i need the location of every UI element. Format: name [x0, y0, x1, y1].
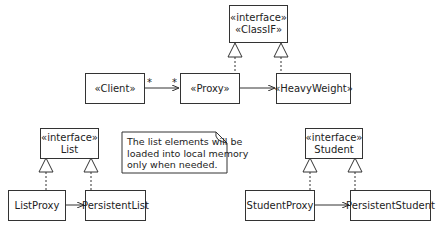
class-list-interface: «interface» List [40, 128, 99, 159]
class-listproxy: ListProxy [8, 190, 66, 221]
class-name: StudentProxy [247, 200, 314, 212]
note: The list elements will be loaded into lo… [122, 133, 228, 173]
class-student-interface: «interface» Student [305, 128, 363, 159]
class-proxy: «Proxy» [180, 73, 240, 104]
multiplicity-client-end: * [147, 77, 152, 88]
class-name: «Proxy» [190, 83, 229, 95]
class-name: «HeavyWeight» [274, 83, 353, 95]
class-name: «Client» [94, 83, 135, 95]
stereotype-label: «interface» [306, 132, 363, 144]
multiplicity-proxy-end: * [172, 77, 177, 88]
note-line: The list elements will be [127, 136, 223, 148]
class-name: «ClassIF» [235, 24, 282, 36]
class-name: ListProxy [15, 200, 60, 212]
class-persistentlist: PersistentList [85, 190, 146, 221]
class-heavyweight: «HeavyWeight» [276, 73, 351, 104]
class-name: PersistentList [82, 200, 149, 212]
stereotype-label: «interface» [41, 132, 98, 144]
class-name: List [61, 144, 78, 156]
class-classif-interface: «interface» «ClassIF» [229, 5, 288, 43]
class-persistentstudent: PersistentStudent [350, 190, 431, 221]
note-line: only when needed. [127, 159, 223, 171]
class-name: PersistentStudent [346, 200, 435, 212]
note-line: loaded into local memory [127, 148, 223, 160]
stereotype-label: «interface» [230, 12, 287, 24]
class-studentproxy: StudentProxy [245, 190, 315, 221]
class-client: «Client» [85, 73, 145, 104]
class-name: Student [314, 144, 353, 156]
